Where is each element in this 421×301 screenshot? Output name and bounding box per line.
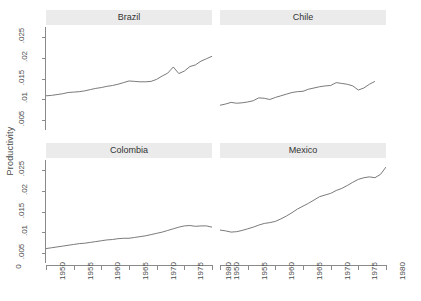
y-tick <box>42 79 46 80</box>
panel-strip-mexico: Mexico <box>220 143 386 158</box>
x-tick-label: 1960 <box>278 271 296 280</box>
y-tick <box>42 37 46 38</box>
panel-strip-chile: Chile <box>220 10 386 25</box>
panel-chile: Chile <box>220 10 386 130</box>
x-tick <box>101 265 102 270</box>
x-tick <box>358 265 359 270</box>
y-axis-top <box>32 27 46 130</box>
series-line-brazil <box>46 27 212 130</box>
y-tick <box>42 212 46 213</box>
x-tick-label: 1955 <box>251 271 269 280</box>
panel-title-mexico: Mexico <box>289 146 318 155</box>
y-tick <box>42 170 46 171</box>
y-tick-labels-bottom: .005.01.015.02.025 <box>2 160 32 263</box>
x-tick-label: 1975 <box>361 271 379 280</box>
panel-title-brazil: Brazil <box>118 13 141 22</box>
x-tick <box>157 265 158 270</box>
x-tick-label: 1950 <box>49 271 67 280</box>
series-line-chile <box>220 27 386 130</box>
plot-area-brazil <box>46 27 212 130</box>
x-tick <box>46 265 47 270</box>
x-tick-label: 1960 <box>104 271 122 280</box>
y-tick-label: .005 <box>14 247 30 256</box>
panel-strip-colombia: Colombia <box>46 143 212 158</box>
x-tick <box>129 265 130 270</box>
x-tick-labels-left: 1950195519601965197019751980 <box>46 271 212 299</box>
y-tick-label: .02 <box>19 52 30 61</box>
x-tick-label: 1970 <box>334 271 352 280</box>
x-tick-label: 1975 <box>187 271 205 280</box>
x-tick-label: 1965 <box>306 271 324 280</box>
y-tick-label: .025 <box>14 164 30 173</box>
plot-area-mexico <box>220 160 386 263</box>
x-tick <box>212 265 213 270</box>
x-tick-label: 1980 <box>389 271 407 280</box>
x-tick <box>248 265 249 270</box>
panel-colombia: Colombia <box>46 143 212 263</box>
x-tick <box>220 265 221 270</box>
x-tick-label: 1970 <box>160 271 178 280</box>
y-tick <box>42 120 46 121</box>
panel-brazil: Brazil <box>46 10 212 130</box>
y-tick-label: .01 <box>19 226 30 235</box>
x-tick-label: 1950 <box>223 271 241 280</box>
x-tick <box>386 265 387 270</box>
x-axis-right <box>220 265 386 270</box>
x-axis-left <box>46 265 212 270</box>
y-tick <box>42 253 46 254</box>
y-axis-bottom <box>32 160 46 263</box>
y-tick-label: .015 <box>14 206 30 215</box>
y-tick-label: .02 <box>19 185 30 194</box>
y-tick-label: .015 <box>14 73 30 82</box>
y-tick <box>42 58 46 59</box>
y-tick-label: .025 <box>14 31 30 40</box>
y-tick <box>42 191 46 192</box>
plot-area-colombia <box>46 160 212 263</box>
y-tick <box>42 232 46 233</box>
series-line-mexico <box>220 160 386 263</box>
x-tick-labels-right: 1950195519601965197019751980 <box>220 271 386 299</box>
y-tick-label: .005 <box>14 114 30 123</box>
y-tick-label: .01 <box>19 93 30 102</box>
panel-strip-brazil: Brazil <box>46 10 212 25</box>
series-line-colombia <box>46 160 212 263</box>
x-tick <box>74 265 75 270</box>
x-tick-label: 1965 <box>132 271 150 280</box>
x-tick <box>303 265 304 270</box>
x-tick <box>331 265 332 270</box>
x-tick-label: 1955 <box>77 271 95 280</box>
y-tick <box>42 99 46 100</box>
panel-title-chile: Chile <box>293 13 314 22</box>
chart-root: Productivity Brazil Chile <box>0 0 421 301</box>
x-tick <box>184 265 185 270</box>
x-tick <box>275 265 276 270</box>
y-tick-label-zero: 0 <box>16 262 20 271</box>
panel-mexico: Mexico <box>220 143 386 263</box>
panel-title-colombia: Colombia <box>110 146 148 155</box>
plot-area-chile <box>220 27 386 130</box>
panel-grid: Brazil Chile Colombia <box>18 0 421 301</box>
y-tick-labels-top: .005.01.015.02.025 <box>2 27 32 130</box>
